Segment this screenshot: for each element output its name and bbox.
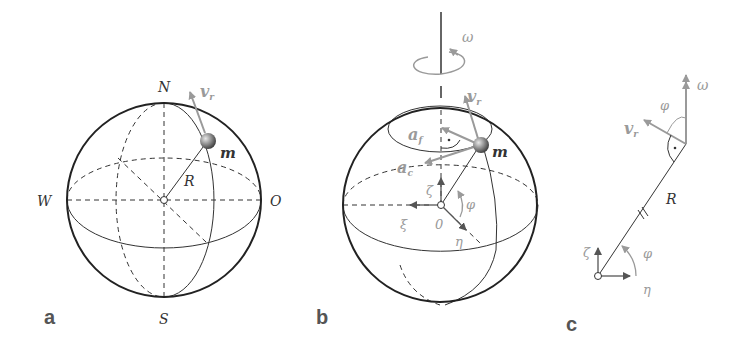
label-omega: ω (462, 29, 474, 45)
origin-point (438, 202, 445, 209)
label-mass: m (492, 143, 508, 161)
panel-label-c: c (566, 313, 577, 335)
panel-label-b: b (316, 306, 328, 328)
label-eta: η (455, 234, 463, 249)
break-mark-2 (642, 207, 648, 216)
phi-angle-arc-top (667, 117, 686, 133)
label-radius: R (665, 191, 677, 207)
origin-point (161, 197, 168, 204)
phi-angle-arc (458, 191, 463, 217)
label-zeta: ζ (426, 183, 434, 198)
label-velocity: vr (200, 82, 215, 102)
mass-ball (473, 137, 489, 153)
label-ac: ac (397, 158, 413, 178)
radius-line (598, 144, 686, 276)
label-af: af (408, 125, 424, 145)
label-phi-top: φ (660, 98, 670, 113)
label-radius: R (183, 173, 195, 189)
panel-c: ω φ vr R ζ φ η c (566, 75, 709, 335)
mass-ball (200, 133, 216, 149)
figure-canvas: N S W O m R vr a ω (0, 0, 748, 357)
origin-point (595, 273, 602, 280)
panel-b: ω vr af ac m ζ ξ (316, 12, 538, 328)
label-omega: ω (697, 77, 709, 93)
label-north: N (157, 79, 171, 95)
label-east: O (270, 193, 282, 209)
label-south: S (159, 311, 169, 327)
label-zeta: ζ (583, 245, 591, 260)
label-eta: η (643, 282, 651, 297)
label-mass: m (220, 144, 236, 162)
label-velocity: vr (467, 87, 482, 107)
panel-a: N S W O m R vr a (37, 79, 282, 328)
label-velocity: vr (624, 119, 639, 139)
velocity-vector-vr (644, 120, 686, 144)
right-angle-dot (448, 139, 451, 142)
right-angle-arc (668, 135, 674, 162)
label-west: W (37, 193, 53, 209)
label-phi-bottom: φ (643, 246, 653, 261)
label-xi: ξ (400, 217, 408, 232)
panel-label-a: a (44, 306, 56, 328)
phi-angle-arc-bottom (622, 246, 636, 276)
label-phi: φ (466, 197, 476, 212)
label-origin: 0 (435, 217, 443, 232)
acceleration-vector-ac (425, 145, 480, 163)
right-angle-arc (441, 140, 460, 148)
right-angle-dot (674, 147, 677, 150)
